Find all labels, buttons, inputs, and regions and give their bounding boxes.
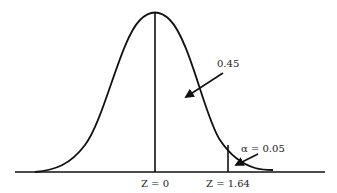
area-arrow bbox=[186, 73, 223, 97]
alpha-label: α = 0.05 bbox=[241, 143, 285, 154]
normal-curve bbox=[35, 13, 273, 173]
normal-distribution-chart: 0.45 α = 0.05 Z = 0 Z = 1.64 bbox=[0, 0, 337, 193]
z0-label: Z = 0 bbox=[141, 178, 169, 189]
area-label: 0.45 bbox=[217, 58, 239, 69]
z164-label: Z = 1.64 bbox=[206, 178, 250, 189]
